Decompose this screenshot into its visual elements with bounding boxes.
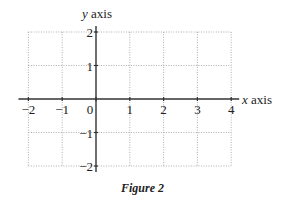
y-axis-word: axis xyxy=(91,6,112,21)
x-tick-label: −1 xyxy=(55,103,69,116)
x-tick-label: −2 xyxy=(21,103,35,116)
x-tick-label: 2 xyxy=(160,103,167,116)
x-axis-word: axis xyxy=(251,92,272,107)
y-tick-label: −1 xyxy=(79,126,93,139)
figure-caption: Figure 2 xyxy=(0,181,285,196)
y-tick-label: 1 xyxy=(87,59,94,72)
y-tick-label: −2 xyxy=(79,160,93,173)
y-tick-label: 2 xyxy=(87,26,94,39)
x-tick-label: 3 xyxy=(194,103,201,116)
y-axis-var: y xyxy=(82,6,88,21)
x-tick-label: 1 xyxy=(127,103,134,116)
x-axis-label: x axis xyxy=(242,93,272,106)
y-axis-label: y axis xyxy=(82,7,112,20)
x-axis-var: x xyxy=(242,92,248,107)
x-tick-label: 4 xyxy=(228,103,235,116)
x-tick-label: 0 xyxy=(87,103,94,116)
